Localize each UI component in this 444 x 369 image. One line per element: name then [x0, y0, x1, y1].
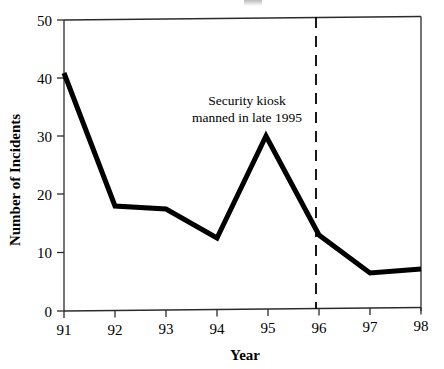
- plot-frame: [64, 17, 421, 312]
- incidents-line-chart: 50 40 30 20 10 0 91 92 93 94 95 96 97: [0, 0, 444, 369]
- x-tick-labels: 91 92 93 94 95 96 97 98: [57, 318, 429, 338]
- chart-canvas: 50 40 30 20 10 0 91 92 93 94 95 96 97: [0, 0, 444, 369]
- x-tick-label-98: 98: [414, 318, 429, 334]
- annotation-line-2: manned in late 1995: [192, 110, 302, 125]
- y-axis-ticks: [57, 20, 64, 311]
- x-tick-label-95: 95: [261, 320, 276, 336]
- x-tick-label-93: 93: [159, 321, 174, 337]
- y-tick-label-10: 10: [37, 245, 52, 261]
- x-axis-title: Year: [230, 347, 260, 363]
- x-tick-label-91: 91: [57, 322, 72, 338]
- x-tick-label-96: 96: [312, 320, 328, 336]
- annotation-line-1: Security kiosk: [208, 93, 286, 108]
- y-tick-label-0: 0: [45, 304, 53, 320]
- y-axis-title: Number of Incidents: [7, 114, 23, 246]
- y-tick-label-40: 40: [37, 71, 52, 87]
- y-tick-label-20: 20: [37, 187, 52, 203]
- x-tick-label-94: 94: [210, 321, 226, 337]
- y-tick-label-50: 50: [37, 13, 52, 29]
- security-kiosk-annotation: Security kiosk manned in late 1995: [192, 93, 302, 125]
- y-tick-label-30: 30: [37, 129, 52, 145]
- x-tick-label-92: 92: [108, 322, 123, 338]
- y-tick-labels: 50 40 30 20 10 0: [37, 13, 52, 320]
- x-tick-label-97: 97: [363, 319, 379, 335]
